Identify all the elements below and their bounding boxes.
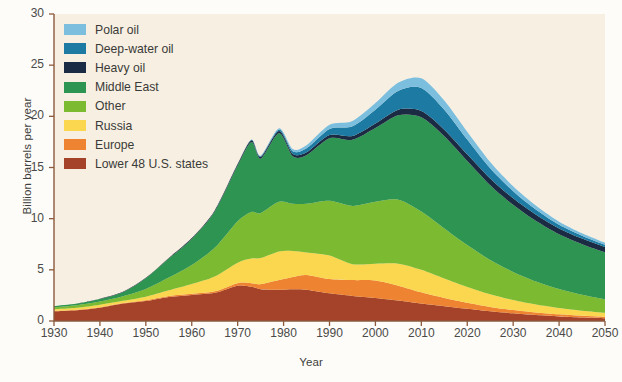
chart-legend: Polar oilDeep-water oilHeavy oilMiddle E… xyxy=(64,20,208,174)
y-tick-label: 25 xyxy=(18,57,44,71)
y-tick-label: 10 xyxy=(18,211,44,225)
legend-item: Polar oil xyxy=(64,20,208,39)
y-tick-label: 5 xyxy=(18,262,44,276)
y-tick-label: 0 xyxy=(18,313,44,327)
legend-item: Europe xyxy=(64,135,208,154)
legend-item: Lower 48 U.S. states xyxy=(64,154,208,173)
chart-figure: Billion barrels per year Year 0510152025… xyxy=(0,0,622,382)
y-tick-label: 30 xyxy=(18,6,44,20)
legend-color-swatch xyxy=(64,158,86,169)
x-tick-label: 2040 xyxy=(535,326,583,340)
legend-color-swatch xyxy=(64,139,86,150)
legend-item: Russia xyxy=(64,116,208,135)
legend-color-swatch xyxy=(64,101,86,112)
legend-item: Middle East xyxy=(64,78,208,97)
legend-item: Heavy oil xyxy=(64,58,208,77)
x-tick-label: 1950 xyxy=(122,326,170,340)
x-tick-label: 2030 xyxy=(489,326,537,340)
legend-label: Europe xyxy=(95,138,134,152)
y-tick-label: 20 xyxy=(18,108,44,122)
x-tick-label: 1990 xyxy=(306,326,354,340)
legend-color-swatch xyxy=(64,43,86,54)
legend-label: Middle East xyxy=(95,80,159,94)
legend-color-swatch xyxy=(64,24,86,35)
x-tick-label: 1980 xyxy=(260,326,308,340)
x-tick-label: 2020 xyxy=(443,326,491,340)
y-tick-label: 15 xyxy=(18,160,44,174)
legend-label: Lower 48 U.S. states xyxy=(95,157,208,171)
legend-label: Heavy oil xyxy=(95,61,145,75)
legend-label: Other xyxy=(95,99,125,113)
legend-label: Polar oil xyxy=(95,23,139,37)
x-axis-title: Year xyxy=(0,356,622,368)
legend-color-swatch xyxy=(64,62,86,73)
x-tick-label: 1960 xyxy=(168,326,216,340)
legend-item: Deep-water oil xyxy=(64,39,208,58)
legend-label: Russia xyxy=(95,119,132,133)
x-tick-label: 2050 xyxy=(581,326,622,340)
x-tick-label: 1930 xyxy=(30,326,78,340)
x-tick-label: 1970 xyxy=(214,326,262,340)
x-tick-label: 1940 xyxy=(76,326,124,340)
x-tick-label: 2000 xyxy=(351,326,399,340)
legend-color-swatch xyxy=(64,82,86,93)
legend-label: Deep-water oil xyxy=(95,42,174,56)
x-tick-label: 2010 xyxy=(397,326,445,340)
legend-item: Other xyxy=(64,97,208,116)
legend-color-swatch xyxy=(64,120,86,131)
